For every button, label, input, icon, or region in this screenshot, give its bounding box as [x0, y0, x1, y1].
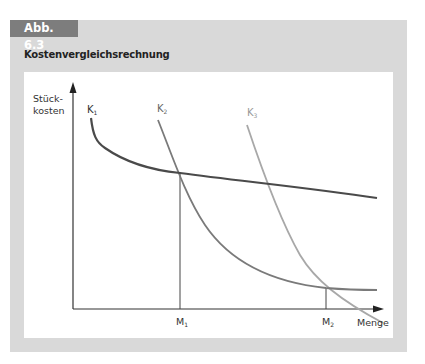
y-axis-arrow-icon	[70, 82, 77, 93]
y-axis-label-line1: Stück-	[33, 93, 63, 104]
curve-k3	[247, 125, 383, 323]
label-k1: K1	[87, 104, 98, 116]
x-tick-m1: M1	[176, 316, 188, 328]
x-axis-arrow-icon	[373, 306, 384, 313]
curve-k1	[91, 118, 377, 198]
label-k3: K3	[247, 107, 258, 119]
y-axis-label-line2: kosten	[33, 105, 65, 116]
x-tick-m2: M2	[322, 316, 334, 328]
label-k2: K2	[157, 103, 168, 115]
curve-k2	[158, 120, 377, 290]
x-axis-label: Menge	[357, 317, 389, 328]
chart-svg: Stück- kosten K1 K2 K3 M1 M2 Menge	[0, 0, 425, 364]
